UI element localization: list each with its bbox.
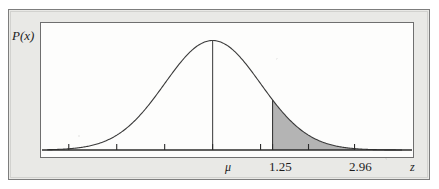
shaded-tail-region [273,100,355,150]
normal-distribution-figure: P(x) μ 1.25 2.96 z [0,0,439,189]
lower-bound-tick-label: 1.25 [269,160,292,173]
upper-bound-tick-label: 2.96 [349,160,372,173]
y-axis-label: P(x) [12,29,34,42]
x-axis-label: z [410,161,415,173]
mean-tick-label: μ [225,161,231,173]
normal-curve [47,41,402,150]
plot-graphics [40,22,414,158]
